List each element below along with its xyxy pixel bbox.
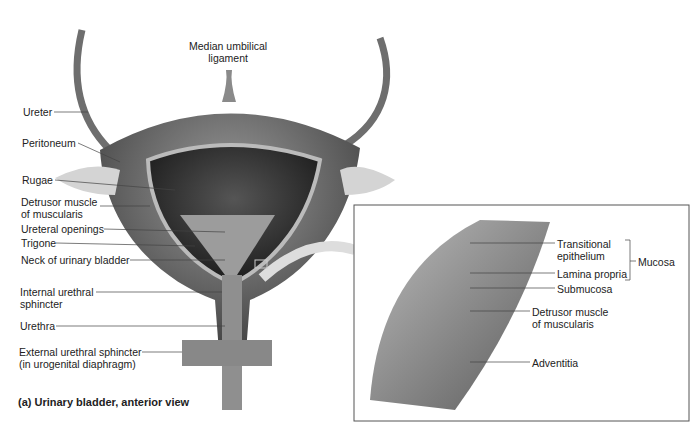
label-ureter: Ureter (23, 106, 52, 118)
label-transitional-epithelium: Transitional epithelium (557, 238, 611, 262)
label-line: of muscularis (21, 208, 97, 220)
label-line: External urethral sphincter (19, 346, 142, 358)
label-internal-sphincter: Internal urethral sphincter (20, 286, 94, 310)
label-line: sphincter (20, 298, 94, 310)
median-umbilical-ligament (222, 70, 236, 102)
label-wall-detrusor: Detrusor muscle of muscularis (532, 306, 608, 330)
label-line: Transitional (557, 238, 611, 250)
left-ureter (77, 30, 110, 150)
bladder-illustration (0, 0, 698, 444)
label-external-sphincter: External urethral sphincter (in urogenit… (19, 346, 142, 370)
right-ureter (345, 38, 387, 145)
label-line: ligament (189, 52, 267, 64)
label-lamina-propria: Lamina propria (557, 268, 627, 280)
label-submucosa: Submucosa (557, 283, 612, 295)
label-line: Detrusor muscle (21, 196, 97, 208)
label-rugae: Rugae (22, 174, 53, 186)
label-median-umbilical: Median umbilical ligament (189, 40, 267, 64)
label-urethra: Urethra (20, 320, 55, 332)
label-trigone: Trigone (21, 237, 56, 249)
label-adventitia: Adventitia (532, 357, 578, 369)
label-line: Median umbilical (189, 40, 267, 52)
label-line: Detrusor muscle (532, 306, 608, 318)
label-neck: Neck of urinary bladder (21, 254, 130, 266)
label-line: Internal urethral (20, 286, 94, 298)
label-peritoneum: Peritoneum (22, 137, 76, 149)
label-detrusor: Detrusor muscle of muscularis (21, 196, 97, 220)
label-mucosa: Mucosa (638, 256, 675, 268)
label-line: (in urogenital diaphragm) (19, 358, 142, 370)
figure-caption: (a) Urinary bladder, anterior view (18, 396, 189, 408)
urogenital-diaphragm (182, 340, 272, 366)
label-line: epithelium (557, 250, 611, 262)
peritoneum-right (340, 167, 395, 195)
label-ureteral-openings: Ureteral openings (21, 223, 104, 235)
label-line: of muscularis (532, 318, 608, 330)
